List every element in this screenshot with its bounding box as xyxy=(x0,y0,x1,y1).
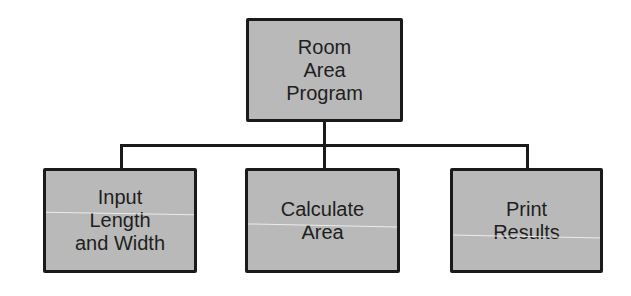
root-label-line-2: Area xyxy=(303,59,345,82)
child-1-label-line-3: and Width xyxy=(75,232,165,255)
root-stem-connector xyxy=(323,120,326,147)
root-label-line-1: Room xyxy=(298,36,351,59)
child-3-label-line-1: Print xyxy=(506,198,547,221)
child-2-connector xyxy=(323,144,326,170)
child-1-label-line-1: Input xyxy=(98,186,142,209)
root-label-line-3: Program xyxy=(286,82,363,105)
child-3-connector xyxy=(526,144,529,170)
child-box-calculate-area: Calculate Area xyxy=(245,168,400,273)
child-box-print-results: Print Results xyxy=(450,168,603,273)
root-box-room-area-program: Room Area Program xyxy=(246,18,403,122)
child-1-connector xyxy=(120,144,123,170)
child-3-label-line-2: Results xyxy=(493,221,560,244)
child-2-label-line-1: Calculate xyxy=(281,198,364,221)
child-box-input-length-width: Input Length and Width xyxy=(43,168,197,273)
